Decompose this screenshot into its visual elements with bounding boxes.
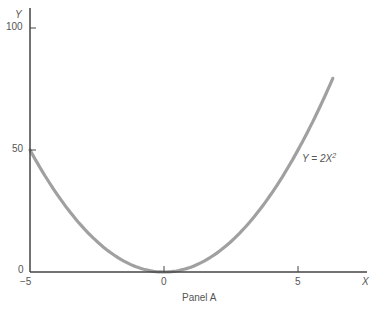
x-tick-label-0: 0	[161, 276, 167, 287]
x-axis-title: X	[362, 276, 369, 287]
y-axis-title: Y	[15, 9, 22, 20]
curve-label-exponent: 2	[332, 152, 336, 159]
y-tick-label-100: 100	[6, 21, 23, 32]
panel-caption: Panel A	[182, 292, 216, 303]
x-tick-label-5: 5	[295, 276, 301, 287]
x-tick-label-neg5: −5	[20, 276, 31, 287]
curve-label: Y = 2X2	[302, 152, 336, 164]
parabola-curve	[30, 78, 333, 272]
y-tick-label-0: 0	[18, 264, 24, 275]
curve-label-main: Y = 2X	[302, 153, 332, 164]
y-tick-label-50: 50	[12, 143, 23, 154]
